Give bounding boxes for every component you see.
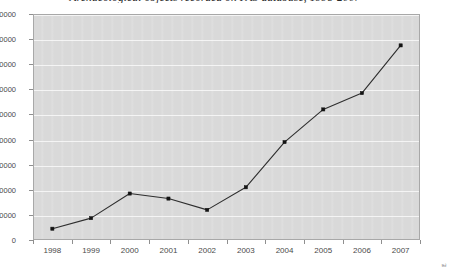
series-markers	[51, 44, 403, 231]
data-point	[244, 186, 247, 189]
data-point	[206, 208, 209, 211]
data-point	[51, 227, 54, 230]
chart-figure: Archaeological objects recorded on PAS d…	[0, 0, 450, 267]
data-point	[128, 192, 131, 195]
copyright-notice: © Portable Antiquities Scheme	[438, 263, 448, 267]
data-point	[89, 217, 92, 220]
data-point	[322, 108, 325, 111]
data-series	[0, 0, 450, 267]
data-point	[167, 197, 170, 200]
series-line	[52, 45, 400, 228]
data-point	[399, 44, 402, 47]
data-point	[283, 140, 286, 143]
data-point	[360, 92, 363, 95]
